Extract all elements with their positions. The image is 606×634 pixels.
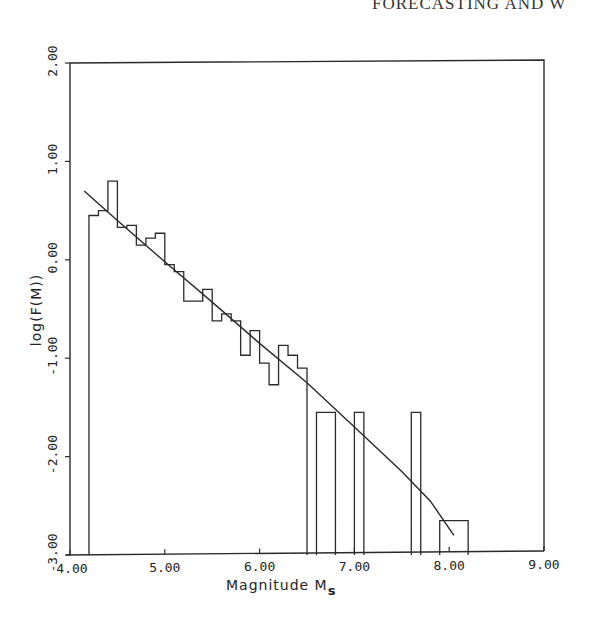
x-tick-label: 9.00 bbox=[528, 557, 559, 572]
x-axis-subscript: s bbox=[328, 583, 337, 598]
axis-ticks: 4.005.006.007.008.009.00-3.00-2.00-1.000… bbox=[45, 45, 560, 576]
y-tick-label: -3.00 bbox=[45, 533, 60, 572]
chart: 4.005.006.007.008.009.00-3.00-2.00-1.000… bbox=[0, 0, 606, 634]
x-tick-label: 6.00 bbox=[244, 559, 275, 574]
y-axis-title: log(F(M)) bbox=[28, 274, 44, 346]
y-tick-label: -1.00 bbox=[45, 337, 60, 376]
y-tick-label: -2.00 bbox=[45, 435, 60, 474]
y-tick-label: 2.00 bbox=[45, 45, 60, 76]
y-tick-label: 1.00 bbox=[45, 144, 60, 175]
x-tick-label: 7.00 bbox=[339, 559, 370, 574]
histogram-outline bbox=[89, 181, 468, 555]
x-tick-label: 5.00 bbox=[149, 560, 180, 575]
histogram-bars bbox=[89, 181, 468, 555]
x-tick-label: 4.00 bbox=[56, 561, 87, 576]
y-tick-label: 0.00 bbox=[45, 242, 60, 273]
x-axis-line bbox=[66, 551, 544, 555]
x-tick-label: 8.00 bbox=[434, 558, 465, 573]
x-axis-title: Magnitude Ms bbox=[226, 577, 336, 598]
plot-frame bbox=[66, 60, 544, 555]
